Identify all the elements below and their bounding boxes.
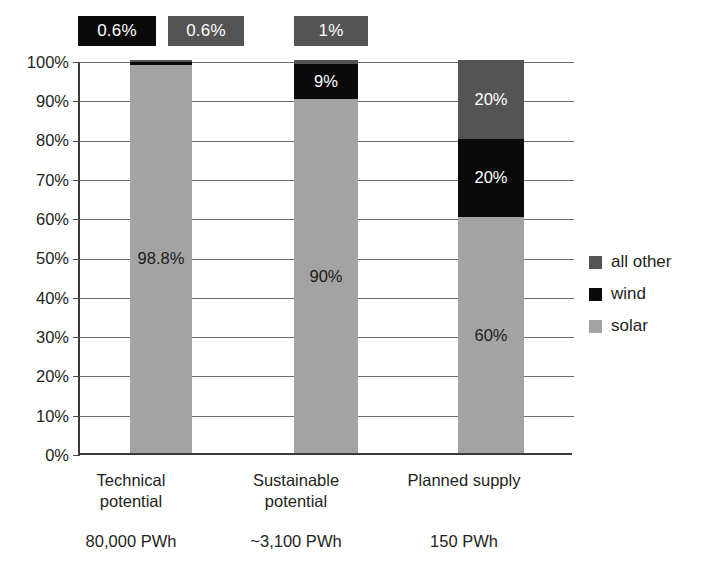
axis-tick-80 bbox=[73, 141, 80, 142]
legend-swatch-all-other-icon bbox=[589, 256, 602, 269]
legend-item-solar[interactable]: solar bbox=[589, 310, 671, 342]
legend: all other wind solar bbox=[589, 246, 671, 342]
ytick-label-80: 80% bbox=[8, 131, 69, 150]
axis-tick-20 bbox=[73, 376, 80, 377]
xcat-label-planned-supply: Planned supply bbox=[390, 470, 538, 491]
xvalue-sustainable-potential: ~3,100 PWh bbox=[230, 532, 362, 551]
bar-segment-solar[interactable]: 60% bbox=[458, 217, 524, 453]
ytick-label-20: 20% bbox=[8, 367, 69, 386]
bar-segment-solar[interactable]: 98.8% bbox=[130, 65, 192, 453]
bar-segment-wind[interactable]: 20% bbox=[458, 139, 524, 218]
axis-tick-40 bbox=[73, 298, 80, 299]
ytick-label-70: 70% bbox=[8, 171, 69, 190]
bar-segment-allother[interactable] bbox=[130, 60, 192, 62]
xvalue-planned-supply: 150 PWh bbox=[390, 532, 538, 551]
legend-label: solar bbox=[611, 316, 648, 336]
axis-tick-10 bbox=[73, 416, 80, 417]
axis-tick-50 bbox=[73, 259, 80, 260]
ytick-label-100: 100% bbox=[8, 53, 69, 72]
legend-swatch-solar-icon bbox=[589, 320, 602, 333]
xcat-line-2: potential bbox=[230, 491, 362, 512]
axis-tick-70 bbox=[73, 180, 80, 181]
bar-technical-potential[interactable]: 98.8% bbox=[130, 60, 192, 453]
xvalue-technical-potential: 80,000 PWh bbox=[68, 532, 194, 551]
legend-label: wind bbox=[611, 284, 646, 304]
legend-item-wind[interactable]: wind bbox=[589, 278, 671, 310]
xcat-label-technical-potential: Technical potential bbox=[68, 470, 194, 512]
ytick-label-90: 90% bbox=[8, 92, 69, 111]
ytick-label-30: 30% bbox=[8, 328, 69, 347]
bar-sustainable-potential[interactable]: 90% 9% bbox=[294, 60, 358, 453]
bar-planned-supply[interactable]: 60% 20% 20% bbox=[458, 60, 524, 453]
axis-tick-60 bbox=[73, 219, 80, 220]
legend-label: all other bbox=[611, 252, 671, 272]
bar-segment-wind[interactable] bbox=[130, 62, 192, 64]
axis-tick-30 bbox=[73, 337, 80, 338]
bar-segment-wind[interactable]: 9% bbox=[294, 64, 358, 99]
xcat-line-2: potential bbox=[68, 491, 194, 512]
ytick-label-0: 0% bbox=[8, 446, 69, 465]
legend-item-all-other[interactable]: all other bbox=[589, 246, 671, 278]
ytick-label-40: 40% bbox=[8, 289, 69, 308]
axis-tick-0 bbox=[73, 455, 80, 456]
callout-wind-technical: 0.6% bbox=[78, 16, 156, 46]
bar-segment-solar[interactable]: 90% bbox=[294, 99, 358, 453]
bar-segment-allother[interactable]: 20% bbox=[458, 60, 524, 139]
xcat-line-1: Sustainable bbox=[230, 470, 362, 491]
callout-allother-technical: 0.6% bbox=[168, 16, 244, 46]
xcat-line-1: Technical bbox=[68, 470, 194, 491]
axis-tick-100 bbox=[73, 62, 80, 63]
legend-swatch-wind-icon bbox=[589, 288, 602, 301]
axis-tick-90 bbox=[73, 101, 80, 102]
ytick-label-10: 10% bbox=[8, 407, 69, 426]
ytick-label-50: 50% bbox=[8, 249, 69, 268]
xcat-label-sustainable-potential: Sustainable potential bbox=[230, 470, 362, 512]
plot-area: 98.8% 90% 9% 60% 20% 20% bbox=[78, 62, 572, 455]
xcat-line-1: Planned supply bbox=[390, 470, 538, 491]
ytick-label-60: 60% bbox=[8, 210, 69, 229]
bar-segment-allother[interactable] bbox=[294, 60, 358, 64]
callout-allother-sustainable: 1% bbox=[294, 16, 368, 46]
